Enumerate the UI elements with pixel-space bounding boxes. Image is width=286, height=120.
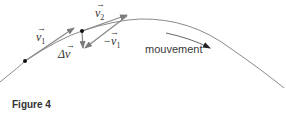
neg-v1-label: →−v1	[103, 34, 120, 50]
figure-caption: Figure 4	[12, 99, 51, 110]
v2-arrow	[82, 15, 127, 31]
point-2	[80, 29, 84, 33]
v1-label: →v1	[36, 30, 45, 46]
delta-v-arrow	[82, 32, 83, 48]
delta-v-label: →Δv	[58, 47, 70, 62]
motion-label: mouvement	[145, 43, 202, 55]
point-1	[23, 59, 27, 63]
v2-label: →v2	[95, 6, 104, 22]
